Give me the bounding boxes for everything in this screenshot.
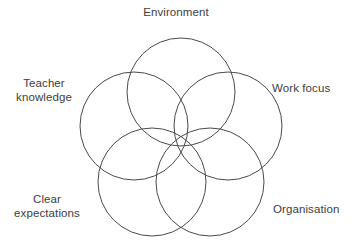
- label-environment: Environment: [0, 6, 352, 20]
- circle-clear-expectations: [98, 128, 206, 236]
- circle-organisation: [156, 128, 264, 236]
- label-organisation: Organisation: [273, 203, 352, 217]
- circle-teacher-knowledge: [80, 72, 188, 180]
- label-work-focus: Work focus: [272, 82, 352, 96]
- circle-environment: [127, 38, 235, 146]
- label-teacher-knowledge: Teacher knowledge: [0, 77, 88, 104]
- diagram-canvas: Environment Teacher knowledge Work focus…: [0, 0, 352, 252]
- circle-work-focus: [174, 72, 282, 180]
- label-clear-expectations: Clear expectations: [0, 193, 94, 220]
